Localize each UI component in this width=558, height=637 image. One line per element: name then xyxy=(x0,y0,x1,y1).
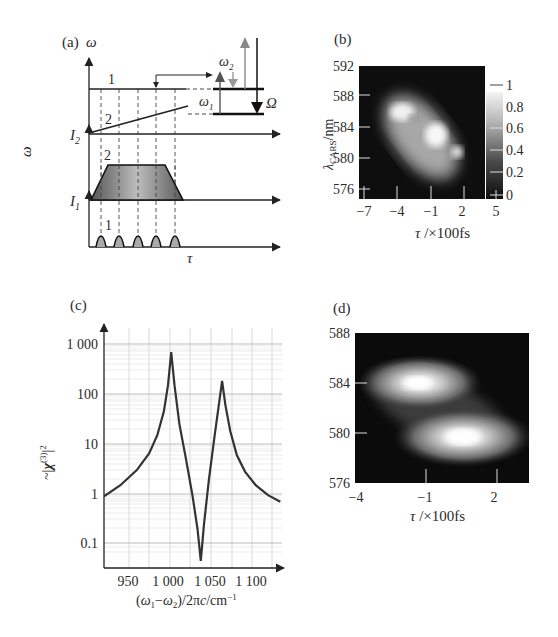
figure: (a) ω ω I2 I1 τ 1 2 xyxy=(0,0,558,637)
heatmap-b-xlabel: τ /×100fs xyxy=(415,225,470,241)
svg-text:2: 2 xyxy=(491,490,498,505)
i1-label: I1 xyxy=(69,193,80,212)
panel-a-label: (a) xyxy=(62,34,79,51)
svg-text:0.2: 0.2 xyxy=(506,165,524,180)
svg-text:2: 2 xyxy=(459,204,466,219)
heatmap-d-yticks: 588 584 580 576 xyxy=(329,326,350,491)
svg-text:588: 588 xyxy=(329,326,350,341)
tau-label: τ xyxy=(187,250,193,266)
beam2-intensity-pulse xyxy=(91,165,183,200)
heatmap-d-xticks: −4 −1 2 xyxy=(349,490,498,505)
svg-text:0.6: 0.6 xyxy=(506,121,524,136)
svg-text:950: 950 xyxy=(118,574,139,589)
colorbar xyxy=(486,92,503,199)
heatmap-b-xticks: −7 −4 −1 2 5 xyxy=(357,204,500,219)
omega1-label: ω1 xyxy=(199,94,213,112)
svg-text:1 000: 1 000 xyxy=(152,574,184,589)
panel-a: (a) ω ω I2 I1 τ 1 2 xyxy=(18,34,280,266)
svg-text:−4: −4 xyxy=(349,490,364,505)
colorbar-ticks: 1 0.8 0.6 0.4 0.2 0 xyxy=(506,78,524,203)
chi-ylabel: ~|χ(3)|2 xyxy=(38,445,55,480)
Omega-label: Ω xyxy=(266,95,277,111)
svg-text:584: 584 xyxy=(333,120,354,135)
panel-c: (c) 1 000 100 10 xyxy=(38,297,284,610)
trapezoid-label: 2 xyxy=(104,148,111,163)
svg-text:−1: −1 xyxy=(424,204,439,219)
probe-timing-arrow xyxy=(156,75,210,87)
svg-text:0.4: 0.4 xyxy=(506,143,524,158)
svg-text:1: 1 xyxy=(91,487,98,502)
beam1-label: 1 xyxy=(108,72,115,87)
heatmap-b-ylabel: λCARS/nm xyxy=(321,119,338,171)
svg-text:584: 584 xyxy=(329,376,350,391)
chi-yticks: 1 000 100 10 1 0.1 xyxy=(67,337,99,551)
panel-c-label: (c) xyxy=(70,297,87,314)
svg-text:1 050: 1 050 xyxy=(194,574,226,589)
panel-d: (d) 588 584 580 576 −4 −1 2 τ /×100fs xyxy=(329,300,533,524)
panel-b-label: (b) xyxy=(334,31,352,48)
svg-text:1: 1 xyxy=(506,78,513,93)
beam1-pulse-train xyxy=(96,236,180,247)
anti-stokes-arrowhead xyxy=(251,102,263,114)
svg-text:0.1: 0.1 xyxy=(81,536,99,551)
omega2-arrowhead xyxy=(228,79,238,88)
probe-arrowhead xyxy=(240,37,250,48)
panel-d-label: (d) xyxy=(333,300,351,317)
svg-text:−4: −4 xyxy=(390,204,405,219)
svg-text:580: 580 xyxy=(329,426,350,441)
omega-side-label: ω xyxy=(18,146,34,157)
heatmap-b-yticks: 592 588 584 580 576 xyxy=(333,59,354,197)
probe-timing-arrowhead-down xyxy=(153,82,159,88)
probe-timing-arrowhead-right xyxy=(206,72,213,78)
omega1-arrowhead xyxy=(215,71,225,82)
heatmap-d-xlabel: τ /×100fs xyxy=(410,508,465,524)
svg-text:5: 5 xyxy=(493,204,500,219)
svg-text:588: 588 xyxy=(333,89,354,104)
svg-text:−1: −1 xyxy=(418,490,433,505)
raman-xlabel: (ω1−ω2)/2πc/cm−1 xyxy=(136,592,237,610)
svg-text:576: 576 xyxy=(329,476,350,491)
svg-text:0: 0 xyxy=(506,188,513,203)
chi3-spectrum-curve xyxy=(104,352,280,561)
svg-text:0.8: 0.8 xyxy=(506,100,524,115)
beam2-chirp-line xyxy=(89,106,188,133)
panel-b: (b) 592 588 584 580 576 −7 −4 −1 2 5 xyxy=(321,31,524,241)
omega2-label: ω2 xyxy=(219,54,234,72)
svg-text:−7: −7 xyxy=(357,204,372,219)
i2-label: I2 xyxy=(69,127,80,146)
svg-text:100: 100 xyxy=(77,387,98,402)
svg-text:10: 10 xyxy=(84,437,98,452)
pulse-train-label: 1 xyxy=(105,218,112,233)
svg-text:576: 576 xyxy=(333,182,354,197)
omega-axis-label: ω xyxy=(86,34,97,50)
svg-text:1 100: 1 100 xyxy=(235,574,267,589)
svg-text:592: 592 xyxy=(333,59,354,74)
raman-xticks: 950 1 000 1 050 1 100 xyxy=(118,574,267,589)
grid-c xyxy=(104,328,282,568)
beam2-label: 2 xyxy=(105,112,112,127)
svg-text:1 000: 1 000 xyxy=(67,337,99,352)
